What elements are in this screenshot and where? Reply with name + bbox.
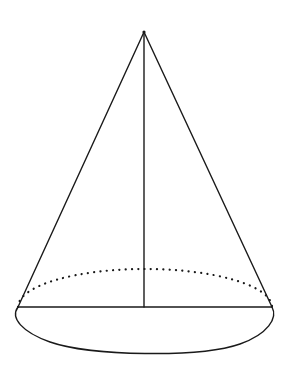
right-slant-edge <box>144 32 272 307</box>
base-front-arc <box>16 307 274 354</box>
apex-point <box>142 30 145 33</box>
cone-diagram <box>0 0 291 378</box>
left-slant-edge <box>18 32 144 307</box>
cone-figure <box>0 0 291 378</box>
base-back-dotted-arc <box>18 269 272 307</box>
